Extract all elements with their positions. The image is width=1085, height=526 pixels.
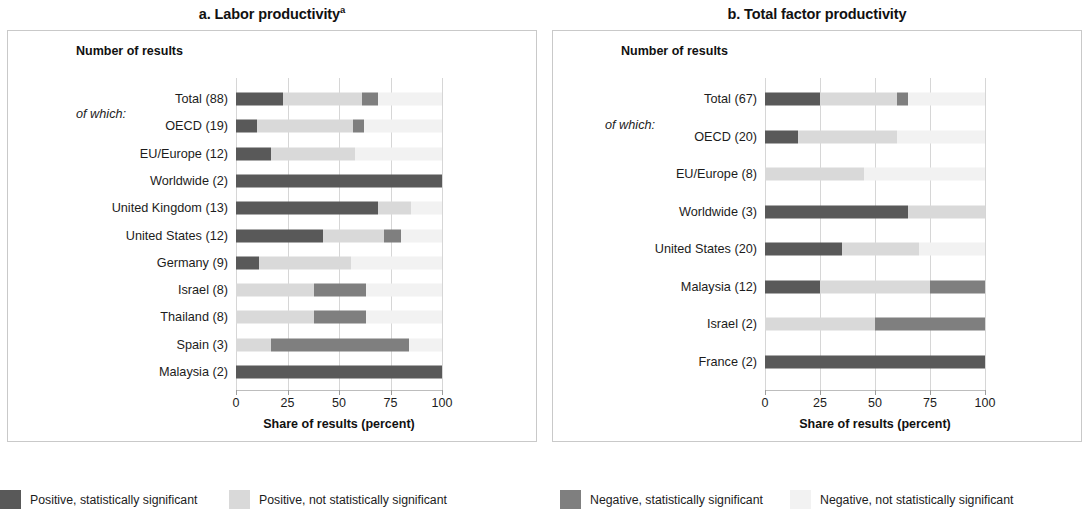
stacked-bar[interactable] bbox=[236, 202, 442, 215]
bar-segment[interactable] bbox=[257, 120, 354, 133]
row-label: Israel (8) bbox=[4, 277, 228, 303]
bar-segment[interactable] bbox=[842, 243, 919, 256]
bar-segment[interactable] bbox=[236, 202, 378, 215]
bar-segment[interactable] bbox=[384, 229, 400, 242]
x-axis-title: Share of results (percent) bbox=[236, 417, 442, 431]
bar-segment[interactable] bbox=[378, 93, 442, 106]
x-axis-tick bbox=[391, 390, 392, 395]
bar-segment[interactable] bbox=[765, 168, 864, 181]
legend-label: Negative, statistically significant bbox=[590, 487, 763, 513]
bar-segment[interactable] bbox=[323, 229, 385, 242]
bar-segment[interactable] bbox=[897, 130, 985, 143]
bar-segment[interactable] bbox=[236, 366, 442, 379]
bar-segment[interactable] bbox=[820, 280, 930, 293]
bar-segment[interactable] bbox=[378, 202, 411, 215]
stacked-bar[interactable] bbox=[236, 120, 442, 133]
x-axis-tick bbox=[288, 390, 289, 395]
bar-segment[interactable] bbox=[875, 318, 985, 331]
bar-segment[interactable] bbox=[362, 93, 378, 106]
bar-segment[interactable] bbox=[798, 130, 897, 143]
x-axis-tick-label: 50 bbox=[332, 396, 346, 410]
bar-segment[interactable] bbox=[355, 147, 442, 160]
row-bar-band bbox=[765, 199, 985, 225]
bar-segment[interactable] bbox=[765, 93, 820, 106]
stacked-bar[interactable] bbox=[236, 311, 442, 324]
bar-segment[interactable] bbox=[864, 168, 985, 181]
bar-segment[interactable] bbox=[765, 355, 985, 368]
chart-row: Israel (2) bbox=[549, 311, 1085, 337]
bar-segment[interactable] bbox=[366, 311, 442, 324]
stacked-bar[interactable] bbox=[236, 174, 442, 187]
bar-segment[interactable] bbox=[401, 229, 442, 242]
stacked-bar[interactable] bbox=[765, 168, 985, 181]
chart-legend: Positive, statistically significantPosit… bbox=[0, 487, 1085, 519]
row-label: Malaysia (12) bbox=[549, 274, 757, 300]
bar-segment[interactable] bbox=[271, 147, 355, 160]
x-axis-tick-label: 0 bbox=[762, 396, 769, 410]
bar-segment[interactable] bbox=[366, 284, 442, 297]
x-axis-tick-label: 75 bbox=[384, 396, 398, 410]
x-axis-tick bbox=[930, 390, 931, 395]
bar-segment[interactable] bbox=[411, 202, 442, 215]
stacked-bar[interactable] bbox=[765, 130, 985, 143]
bar-segment[interactable] bbox=[236, 311, 314, 324]
stacked-bar[interactable] bbox=[765, 318, 985, 331]
bar-segment[interactable] bbox=[820, 93, 897, 106]
bar-segment[interactable] bbox=[271, 338, 409, 351]
row-label: Thailand (8) bbox=[4, 304, 228, 330]
stacked-bar[interactable] bbox=[236, 147, 442, 160]
stacked-bar[interactable] bbox=[236, 229, 442, 242]
row-bar-band bbox=[236, 141, 442, 167]
bar-segment[interactable] bbox=[236, 174, 442, 187]
bar-segment[interactable] bbox=[236, 338, 271, 351]
bar-segment[interactable] bbox=[897, 93, 908, 106]
bar-segment[interactable] bbox=[353, 120, 363, 133]
bar-segment[interactable] bbox=[236, 93, 283, 106]
bar-segment[interactable] bbox=[765, 243, 842, 256]
bar-segment[interactable] bbox=[765, 318, 875, 331]
bar-segment[interactable] bbox=[765, 280, 820, 293]
legend-label: Negative, not statistically significant bbox=[820, 487, 1013, 513]
stacked-bar[interactable] bbox=[236, 93, 442, 106]
panel-labor-productivity: a. Labor productivitya Number of results… bbox=[4, 0, 540, 452]
stacked-bar[interactable] bbox=[236, 338, 442, 351]
bar-segment[interactable] bbox=[314, 284, 366, 297]
bar-segment[interactable] bbox=[364, 120, 442, 133]
bar-segment[interactable] bbox=[908, 93, 985, 106]
bar-segment[interactable] bbox=[409, 338, 442, 351]
bar-segment[interactable] bbox=[351, 256, 442, 269]
stacked-bar[interactable] bbox=[765, 355, 985, 368]
bar-segment[interactable] bbox=[930, 280, 985, 293]
legend-label: Positive, statistically significant bbox=[30, 487, 197, 513]
bar-segment[interactable] bbox=[919, 243, 985, 256]
bar-segment[interactable] bbox=[283, 93, 361, 106]
bar-segment[interactable] bbox=[314, 311, 366, 324]
chart-row: United States (20) bbox=[549, 236, 1085, 262]
bar-segment[interactable] bbox=[765, 130, 798, 143]
bar-segment[interactable] bbox=[765, 205, 908, 218]
stacked-bar[interactable] bbox=[236, 284, 442, 297]
row-bar-band bbox=[765, 124, 985, 150]
x-axis-tick bbox=[339, 390, 340, 395]
stacked-bar[interactable] bbox=[236, 366, 442, 379]
bar-segment[interactable] bbox=[236, 284, 314, 297]
row-bar-band bbox=[765, 86, 985, 112]
stacked-bar[interactable] bbox=[765, 205, 985, 218]
row-bar-band bbox=[236, 195, 442, 221]
bar-segment[interactable] bbox=[236, 120, 257, 133]
panel-total-factor-productivity: b. Total factor productivity Number of r… bbox=[549, 0, 1085, 452]
stacked-bar[interactable] bbox=[765, 243, 985, 256]
bar-segment[interactable] bbox=[259, 256, 352, 269]
row-bar-band bbox=[765, 311, 985, 337]
bar-segment[interactable] bbox=[236, 147, 271, 160]
bar-segment[interactable] bbox=[908, 205, 985, 218]
x-axis-tick-label: 25 bbox=[813, 396, 827, 410]
bar-segment[interactable] bbox=[236, 256, 259, 269]
stacked-bar[interactable] bbox=[236, 256, 442, 269]
row-label: United States (12) bbox=[4, 223, 228, 249]
row-label: Germany (9) bbox=[4, 250, 228, 276]
bar-segment[interactable] bbox=[236, 229, 323, 242]
stacked-bar[interactable] bbox=[765, 93, 985, 106]
stacked-bar[interactable] bbox=[765, 280, 985, 293]
row-bar-band bbox=[236, 359, 442, 385]
